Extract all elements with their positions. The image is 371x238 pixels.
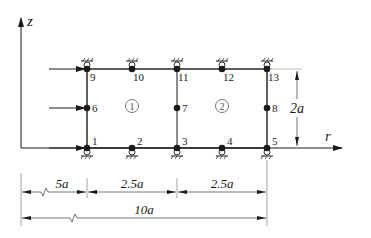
z-axis: z — [21, 13, 33, 148]
element1-width-label: 2.5a — [121, 176, 144, 191]
node-dot-8 — [264, 105, 271, 112]
node-label-10: 10 — [133, 71, 145, 83]
offset-dimension-label: 5a — [56, 176, 70, 191]
z-axis-label: z — [26, 13, 33, 29]
node-dot-7 — [174, 105, 181, 112]
node-label-3: 3 — [182, 135, 188, 147]
node-dot-4 — [219, 145, 226, 152]
node-label-11: 11 — [178, 71, 189, 83]
node-label-2: 2 — [137, 135, 143, 147]
node-labels: 1 2 3 4 5 6 7 8 9 10 11 12 13 — [90, 71, 280, 147]
node-label-8: 8 — [272, 102, 278, 114]
finite-element-mesh-diagram: z r — [0, 0, 371, 238]
node-dot-1 — [84, 145, 91, 152]
element-label-1: 1 — [130, 101, 135, 112]
node-dot-2 — [129, 145, 136, 152]
node-label-1: 1 — [92, 135, 98, 147]
element2-width-label: 2.5a — [211, 176, 234, 191]
applied-loads — [49, 69, 85, 148]
node-dot-5 — [264, 145, 271, 152]
total-dimension-label: 10a — [134, 202, 154, 217]
node-label-4: 4 — [227, 135, 233, 147]
node-label-6: 6 — [92, 102, 98, 114]
height-dimension-label: 2a — [290, 101, 304, 116]
dimension-labels: 5a 2.5a 2.5a 10a — [56, 176, 234, 217]
node-label-13: 13 — [268, 71, 280, 83]
node-dot-3 — [174, 145, 181, 152]
r-axis-label: r — [325, 128, 331, 144]
node-label-12: 12 — [223, 71, 234, 83]
node-label-7: 7 — [182, 102, 188, 114]
node-dot-6 — [84, 105, 91, 112]
element-label-2: 2 — [220, 101, 225, 112]
node-label-9: 9 — [90, 71, 96, 83]
node-label-5: 5 — [272, 135, 278, 147]
